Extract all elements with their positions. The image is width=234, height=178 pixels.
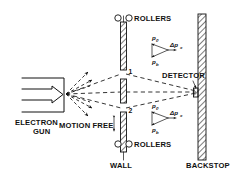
electron-gun-group xyxy=(22,78,64,112)
electron-ray-fan xyxy=(66,72,121,116)
vector-delta-label-lower: Δp xyxy=(169,109,178,116)
vector-p0-sub-upper: 0 xyxy=(156,38,159,43)
vector-p0-lower xyxy=(152,112,168,118)
ray-axis xyxy=(66,92,121,94)
diagram-canvas: ROLLERS ROLLERS DETECTOR 1 2 MOTION FREE xyxy=(0,0,234,178)
roller-top-right-icon xyxy=(126,15,132,21)
ray-down-inner xyxy=(66,94,92,108)
rollers-top-label: ROLLERS xyxy=(134,14,171,23)
backstop-label: BACKSTOP xyxy=(186,161,230,170)
detector-element xyxy=(194,88,199,97)
vector-pb-lower xyxy=(152,118,168,125)
electron-gun-nozzle xyxy=(22,86,63,103)
ray-to-slit-1 xyxy=(66,74,121,94)
wall-segment-upper xyxy=(121,22,127,70)
roller-bottom-left-icon xyxy=(115,141,121,147)
ray-down-outer xyxy=(66,94,88,116)
vector-pb-sub-lower: b xyxy=(156,130,159,135)
wall-group xyxy=(121,16,127,160)
vector-delta-label-upper: Δp xyxy=(169,41,178,48)
detector-pointer-icon xyxy=(193,81,196,88)
ray-up-inner xyxy=(66,80,92,94)
vector-delta-sub-upper: x xyxy=(179,45,183,50)
momentum-vector-upper-group: p 0 p b Δp x xyxy=(151,34,183,67)
ray-slit2-detector xyxy=(126,93,196,108)
vector-p0-upper xyxy=(152,44,168,50)
electron-gun-body xyxy=(22,78,64,112)
detector-label: DETECTOR xyxy=(162,71,205,80)
wall-segment-lower xyxy=(121,112,127,152)
roller-bottom-right-icon xyxy=(126,141,132,147)
ray-up-outer xyxy=(66,72,88,94)
motion-free-group: MOTION FREE xyxy=(59,118,114,131)
wall-segment-middle xyxy=(121,79,127,103)
electron-gun-label-line1: ELECTRON xyxy=(15,118,58,127)
vector-pb-sub-upper: b xyxy=(156,62,159,67)
momentum-vector-lower-group: p 0 p b Δp x xyxy=(151,102,183,135)
slit-1-label: 1 xyxy=(129,68,133,75)
vector-p0-sub-lower: 0 xyxy=(156,106,159,111)
ray-to-slit-2 xyxy=(66,94,121,108)
electron-gun-label-line2: GUN xyxy=(33,127,50,136)
wall-label: WALL xyxy=(110,161,132,170)
physics-diagram-figure: ROLLERS ROLLERS DETECTOR 1 2 MOTION FREE xyxy=(0,0,234,178)
roller-top-left-icon xyxy=(115,15,121,21)
motion-free-label: MOTION FREE xyxy=(59,121,113,130)
rollers-bottom-label: ROLLERS xyxy=(134,140,171,149)
backstop-plate xyxy=(198,14,206,160)
slit-2-label: 2 xyxy=(129,107,133,114)
vector-delta-sub-lower: x xyxy=(179,113,183,118)
vector-pb-upper xyxy=(152,50,168,57)
